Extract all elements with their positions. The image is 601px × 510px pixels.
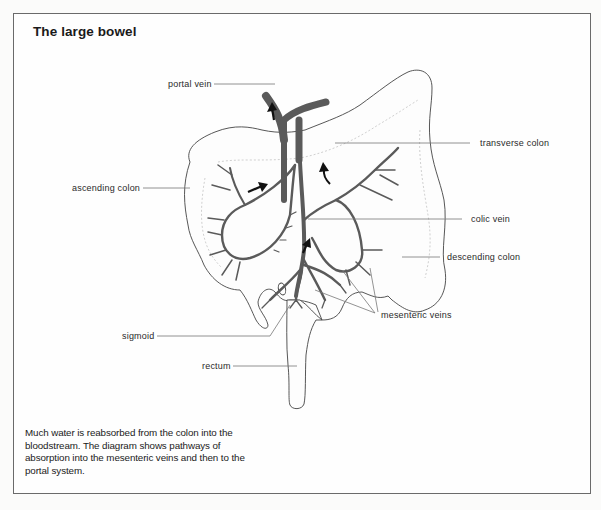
label-sigmoid: sigmoid	[122, 331, 154, 341]
label-ascending-colon: ascending colon	[72, 183, 140, 193]
label-mesenteric-veins: mesenteric veins	[381, 310, 452, 320]
label-descending-colon: descending colon	[447, 252, 520, 262]
colon-outline	[185, 70, 446, 408]
label-portal-vein: portal vein	[168, 79, 212, 89]
label-transverse-colon: transverse colon	[480, 138, 549, 148]
leader-sigmoid	[157, 305, 290, 336]
label-rectum: rectum	[202, 361, 231, 371]
figure-caption: Much water is reabsorbed from the colon …	[25, 427, 260, 477]
label-colic-vein: colic vein	[471, 214, 510, 224]
